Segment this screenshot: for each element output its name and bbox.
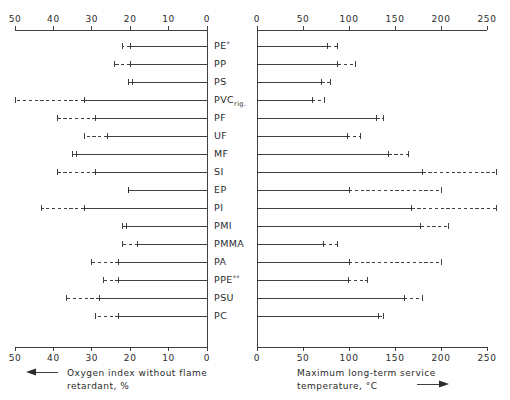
- category-label: PI: [214, 202, 223, 213]
- bar-row: [57, 169, 207, 175]
- category-labels-group: PE*PPPSPVCrig.PFUFMFSIEPPIPMIPMMAPAPPE**…: [214, 40, 246, 322]
- right-chart-panel: 050100150200250 050100150200250 Maximum …: [250, 0, 510, 400]
- left-axis-title-line1: Oxygen index without flame: [67, 368, 207, 378]
- bar-row: [92, 259, 207, 265]
- bar-row: [15, 97, 207, 103]
- bar-row: [257, 133, 361, 139]
- right-top-axis: 050100150200250: [254, 14, 497, 30]
- left-tick-label: 0: [204, 14, 210, 24]
- right-axis-title: Maximum long-term servicetemperature, °C: [297, 368, 449, 391]
- right-bars-group: [257, 43, 496, 319]
- category-label: SI: [214, 166, 224, 177]
- bar-row: [123, 43, 207, 49]
- category-label: MF: [214, 148, 228, 159]
- right-tick-label: 200: [432, 353, 451, 363]
- bar-row: [257, 187, 441, 193]
- right-tick-label: 100: [340, 14, 359, 24]
- bar-row: [257, 295, 423, 301]
- left-tick-label: 30: [85, 353, 98, 363]
- bar-row: [257, 97, 324, 103]
- bar-row: [42, 205, 207, 211]
- right-chart-svg: 050100150200250 050100150200250 Maximum …: [250, 0, 510, 400]
- bar-row: [73, 151, 207, 157]
- bar-row: [257, 223, 448, 229]
- right-tick-label: 200: [432, 14, 451, 24]
- bar-row: [57, 115, 207, 121]
- bar-row: [128, 79, 207, 85]
- bar-row: [84, 133, 207, 139]
- left-tick-label: 20: [124, 14, 137, 24]
- bar-row: [115, 61, 207, 67]
- right-tick-label: 50: [297, 353, 310, 363]
- left-chart-panel: 50403020100 50403020100 PE*PPPSPVCrig.PF…: [0, 0, 250, 400]
- category-label: PE*: [214, 40, 231, 52]
- category-label: PF: [214, 112, 226, 123]
- left-tick-label: 0: [204, 353, 210, 363]
- bar-row: [257, 43, 338, 49]
- right-bottom-axis: 050100150200250: [254, 347, 497, 363]
- bar-row: [128, 187, 207, 193]
- bar-row: [103, 277, 207, 283]
- bar-row: [257, 277, 367, 283]
- right-tick-label: 50: [297, 14, 310, 24]
- left-tick-label: 10: [162, 353, 175, 363]
- right-tick-label: 0: [254, 353, 260, 363]
- bar-row: [123, 223, 207, 229]
- right-tick-label: 100: [340, 353, 359, 363]
- bar-row: [257, 313, 384, 319]
- left-tick-label: 40: [47, 14, 60, 24]
- category-label: PMMA: [214, 238, 244, 249]
- figure-root: 50403020100 50403020100 PE*PPPSPVCrig.PF…: [0, 0, 510, 400]
- category-label: PMI: [214, 220, 232, 231]
- category-label: EP: [214, 184, 227, 195]
- bar-row: [123, 241, 207, 247]
- bar-row: [257, 79, 331, 85]
- right-tick-label: 0: [254, 14, 260, 24]
- right-tick-label: 150: [386, 14, 405, 24]
- left-axis-title-line2: retardant, %: [67, 381, 129, 391]
- bar-row: [257, 259, 441, 265]
- left-tick-label: 30: [85, 14, 98, 24]
- left-tick-label: 50: [9, 353, 22, 363]
- bar-row: [257, 115, 383, 121]
- right-axis-title-line1: Maximum long-term service: [297, 368, 436, 378]
- category-label: UF: [214, 130, 227, 141]
- bar-row: [257, 169, 496, 175]
- bar-row: [257, 61, 355, 67]
- left-bottom-axis: 50403020100: [9, 347, 210, 363]
- right-arrow-icon: [417, 381, 449, 388]
- bar-row: [257, 241, 337, 247]
- left-top-axis: 50403020100: [9, 14, 210, 30]
- left-tick-label: 20: [124, 353, 137, 363]
- category-label: PSU: [214, 292, 234, 303]
- left-chart-svg: 50403020100 50403020100 PE*PPPSPVCrig.PF…: [0, 0, 250, 400]
- left-tick-label: 40: [47, 353, 60, 363]
- category-label: PP: [214, 58, 226, 69]
- category-label: PA: [214, 256, 227, 267]
- left-axis-title: Oxygen index without flameretardant, %: [26, 368, 207, 391]
- bar-row: [67, 295, 207, 301]
- bar-row: [257, 151, 409, 157]
- category-label: PC: [214, 310, 227, 321]
- right-tick-label: 250: [478, 353, 497, 363]
- left-bars-group: [15, 43, 207, 319]
- left-arrow-icon: [26, 369, 58, 376]
- right-tick-label: 150: [386, 353, 405, 363]
- category-label: PPE**: [214, 274, 240, 286]
- bar-row: [96, 313, 207, 319]
- right-tick-label: 250: [478, 14, 497, 24]
- right-axis-title-line2: temperature, °C: [297, 381, 378, 391]
- category-label: PVCrig.: [214, 94, 246, 107]
- category-label: PS: [214, 76, 227, 87]
- left-tick-label: 50: [9, 14, 22, 24]
- bar-row: [257, 205, 496, 211]
- left-tick-label: 10: [162, 14, 175, 24]
